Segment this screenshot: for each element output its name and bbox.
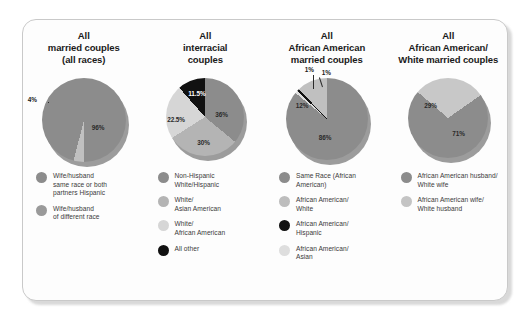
legend-item-label: Wife/husband of different race xyxy=(53,205,100,222)
legend-item-label: African American/ Hispanic xyxy=(296,220,349,237)
legend-item[interactable]: African American/ White xyxy=(279,196,384,213)
chart-title-3: All African American married couples xyxy=(266,30,388,66)
chart-title-4-line3: White married couples xyxy=(390,54,508,66)
legend-swatch-icon xyxy=(401,172,412,183)
legend-item[interactable]: Wife/husband same race or both partners … xyxy=(36,172,141,198)
pie-label-1-4: 4% xyxy=(28,96,37,103)
chart-title-1-line3: (all races) xyxy=(25,54,143,66)
legend-item[interactable]: African American wife/ White husband xyxy=(401,196,506,213)
pie-holder-4: 71% 29% xyxy=(408,78,488,158)
chart-title-2-line1: All xyxy=(147,30,265,42)
legend-item-label: White/ African American xyxy=(175,220,226,237)
pie-slices-4 xyxy=(408,78,488,158)
legend-swatch-icon xyxy=(279,172,290,183)
chart-title-2-line2: interracial xyxy=(147,42,265,54)
legend-swatch-icon xyxy=(279,196,290,207)
legend-3: Same Race (African American) African Ame… xyxy=(266,172,388,262)
chart-title-4-line2: African American/ xyxy=(390,42,508,54)
legend-swatch-icon xyxy=(158,172,169,183)
chart-title-2-line3: couples xyxy=(147,54,265,66)
pie-label-2-115: 11.5% xyxy=(188,90,205,97)
pie-label-3-12: 12% xyxy=(296,102,309,109)
chart-column-4: All African American/ White married coup… xyxy=(388,20,510,302)
pie-label-2-225: 22.5% xyxy=(167,116,185,123)
chart-title-3-line3: married couples xyxy=(268,54,386,66)
pie-label-4-71: 71% xyxy=(452,130,465,137)
legend-1: Wife/husband same race or both partners … xyxy=(23,172,145,222)
pie-label-4-29: 29% xyxy=(424,102,437,109)
pie-chart-3: 86% 12% 1% 1% xyxy=(266,72,388,168)
legend-4: African American husband/ White wife Afr… xyxy=(388,172,510,213)
pie-holder-3: 86% 12% 1% 1% xyxy=(286,78,368,160)
chart-title-2: All interracial couples xyxy=(145,30,267,66)
pie-label-2-30: 30% xyxy=(197,139,210,146)
pie-label-1-96: 96% xyxy=(92,124,105,131)
legend-item[interactable]: Wife/husband of different race xyxy=(36,205,141,222)
legend-item-label: African American/ White xyxy=(296,196,349,213)
pie-label-3-1b: 1% xyxy=(322,69,331,76)
legend-item-label: African American/ Asian xyxy=(296,245,349,262)
legend-item[interactable]: White/ Asian American xyxy=(158,196,263,213)
legend-swatch-icon xyxy=(401,196,412,207)
legend-item[interactable]: African American/ Asian xyxy=(279,245,384,262)
pie-slices-1 xyxy=(42,78,126,162)
chart-title-1: All married couples (all races) xyxy=(23,30,145,66)
legend-swatch-icon xyxy=(36,172,47,183)
pie-holder-1: 96% 4% xyxy=(42,78,126,162)
pie-leader-3a xyxy=(313,75,314,89)
legend-item[interactable]: Same Race (African American) xyxy=(279,172,384,189)
chart-panel: All married couples (all races) 96% 4% xyxy=(22,19,508,301)
infographic-page: All married couples (all races) 96% 4% xyxy=(0,0,532,331)
pie-label-3-1a: 1% xyxy=(305,66,314,73)
chart-column-1: All married couples (all races) 96% 4% xyxy=(23,20,145,302)
legend-item-label: All other xyxy=(175,245,200,254)
pie-chart-1: 96% 4% xyxy=(23,72,145,168)
legend-swatch-icon xyxy=(158,196,169,207)
chart-title-3-line2: African American xyxy=(268,42,386,54)
legend-item[interactable]: Non-Hispanic White/Hispanic xyxy=(158,172,263,189)
pie-leader-1 xyxy=(48,102,49,103)
legend-item-label: African American wife/ White husband xyxy=(418,196,484,213)
pie-chart-2: 36% 30% 22.5% 11.5% xyxy=(145,72,267,168)
legend-item-label: Same Race (African American) xyxy=(296,172,356,189)
chart-title-3-line1: All xyxy=(268,30,386,42)
legend-swatch-icon xyxy=(158,245,169,256)
legend-2: Non-Hispanic White/Hispanic White/ Asian… xyxy=(145,172,267,256)
legend-swatch-icon xyxy=(36,205,47,216)
pie-label-3-86: 86% xyxy=(319,134,332,141)
legend-swatch-icon xyxy=(279,245,290,256)
legend-item[interactable]: White/ African American xyxy=(158,220,263,237)
legend-item[interactable]: All other xyxy=(158,245,263,256)
chart-title-4-line1: All xyxy=(390,30,508,42)
legend-swatch-icon xyxy=(279,220,290,231)
pie-chart-4: 71% 29% xyxy=(388,72,510,168)
pie-label-2-36: 36% xyxy=(215,111,228,118)
legend-item[interactable]: African American/ Hispanic xyxy=(279,220,384,237)
pie-slices-3 xyxy=(286,78,368,160)
legend-swatch-icon xyxy=(158,220,169,231)
chart-columns: All married couples (all races) 96% 4% xyxy=(23,20,509,302)
chart-title-1-line2: married couples xyxy=(25,42,143,54)
chart-title-4: All African American/ White married coup… xyxy=(388,30,510,66)
legend-item-label: White/ Asian American xyxy=(175,196,222,213)
legend-item-label: Wife/husband same race or both partners … xyxy=(53,172,107,198)
legend-item[interactable]: African American husband/ White wife xyxy=(401,172,506,189)
chart-title-1-line1: All xyxy=(25,30,143,42)
pie-holder-2: 36% 30% 22.5% 11.5% xyxy=(166,78,244,156)
chart-column-2: All interracial couples 36% 30% 22.5% 11… xyxy=(145,20,267,302)
legend-item-label: African American husband/ White wife xyxy=(418,172,498,189)
legend-item-label: Non-Hispanic White/Hispanic xyxy=(175,172,220,189)
chart-column-3: All African American married couples 86%… xyxy=(266,20,388,302)
